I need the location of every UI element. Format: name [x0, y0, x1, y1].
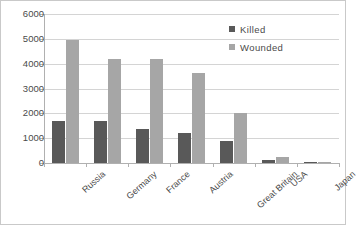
x-axis-category-label: Japan — [332, 169, 357, 193]
x-axis-tick — [86, 163, 87, 167]
x-axis-category-label: France — [165, 169, 193, 195]
bar-group — [128, 14, 170, 163]
x-axis-tick — [297, 163, 298, 167]
x-axis-tick — [339, 163, 340, 167]
x-axis-tick — [170, 163, 171, 167]
x-axis-category-label: Great Britain — [255, 169, 299, 210]
bar-killed — [94, 121, 107, 163]
y-axis-tick-label: 2000 — [4, 108, 44, 118]
y-axis-tick-label: 5000 — [4, 34, 44, 44]
bar-wounded — [66, 40, 79, 163]
legend-item-wounded[interactable]: Wounded — [229, 38, 329, 56]
bar-group — [170, 14, 212, 163]
legend-item-killed[interactable]: Killed — [229, 20, 329, 38]
legend-label: Killed — [240, 24, 266, 35]
bar-killed — [262, 160, 275, 163]
x-axis-tick — [213, 163, 214, 167]
legend-swatch-icon — [229, 26, 235, 32]
y-axis-tick-label: 4000 — [4, 59, 44, 69]
x-axis-category-label: Germany — [125, 169, 159, 201]
x-axis-tick — [44, 163, 45, 167]
x-axis-category-label: Russia — [80, 169, 107, 195]
legend-swatch-icon — [229, 44, 235, 50]
gridline — [44, 163, 339, 164]
bar-killed — [178, 133, 191, 163]
chart-legend: KilledWounded — [229, 20, 329, 56]
y-axis-tick-label: 1000 — [4, 133, 44, 143]
bar-wounded — [234, 113, 247, 163]
x-axis-category-label: Austria — [207, 169, 235, 195]
legend-label: Wounded — [240, 42, 283, 53]
y-axis-tick-label: 3000 — [4, 84, 44, 94]
bar-wounded — [276, 157, 289, 163]
y-axis-tick-label: 0 — [4, 158, 44, 168]
bar-killed — [220, 141, 233, 163]
bar-wounded — [192, 73, 205, 163]
bar-killed — [136, 129, 149, 163]
y-axis-tick-label: 6000 — [4, 9, 44, 19]
bar-killed — [52, 121, 65, 163]
bar-group — [86, 14, 128, 163]
bar-wounded — [150, 59, 163, 163]
x-axis-tick — [255, 163, 256, 167]
bar-group — [44, 14, 86, 163]
bar-wounded — [318, 162, 331, 163]
bar-wounded — [108, 59, 121, 163]
x-axis-tick — [128, 163, 129, 167]
bar-killed — [304, 162, 317, 163]
